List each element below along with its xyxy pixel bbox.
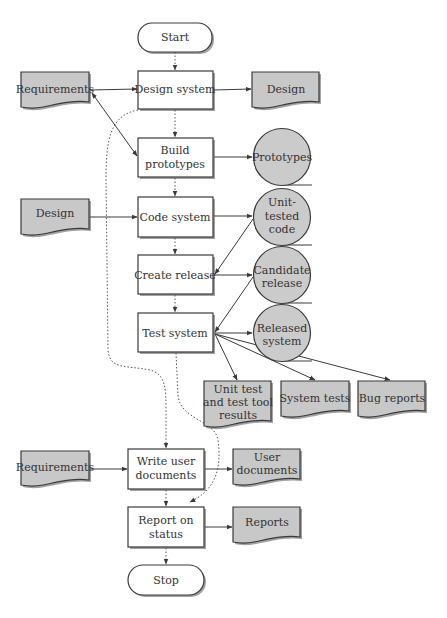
store-label: Prototypes (252, 151, 313, 164)
process-create-release[interactable]: Create release (134, 255, 216, 296)
process-label: Test system (142, 327, 208, 340)
document-requirements-top[interactable]: Requirements (16, 72, 95, 110)
store-released-system[interactable]: Released system (254, 305, 313, 362)
document-bug-reports[interactable]: Bug reports (358, 381, 427, 419)
document-system-tests[interactable]: System tests (280, 381, 351, 419)
process-label: Create release (134, 269, 216, 282)
store-unit-tested-code[interactable]: Unit- tested code (254, 189, 313, 246)
terminal-label: Start (161, 31, 190, 44)
store-label: Candidate (253, 264, 310, 277)
terminal-start[interactable]: Start (138, 23, 214, 54)
flowchart-canvas: Start Stop Design system Build prototype… (0, 0, 447, 618)
store-label: Released (257, 322, 308, 335)
process-build-prototypes[interactable]: Build prototypes (138, 138, 215, 179)
document-label: System tests (280, 392, 351, 405)
process-label: status (149, 528, 183, 541)
document-label: Unit test (214, 383, 263, 396)
store-label: Unit- (268, 196, 296, 209)
process-label: Design system (135, 83, 217, 96)
process-label: Build (160, 144, 189, 157)
document-label: results (219, 409, 257, 422)
process-report-on-status[interactable]: Report on status (128, 507, 206, 549)
process-label: Write user (137, 455, 196, 468)
store-label: system (263, 335, 302, 348)
terminal-stop[interactable]: Stop (128, 565, 206, 597)
document-label: Design (36, 207, 75, 220)
document-design-output[interactable]: Design (252, 72, 321, 110)
document-unit-test-results[interactable]: Unit test and test tool results (203, 381, 273, 429)
document-design-input[interactable]: Design (21, 199, 91, 237)
process-design-system[interactable]: Design system (135, 71, 217, 111)
document-label: Reports (245, 516, 289, 529)
document-label: Requirements (16, 461, 95, 474)
process-label: prototypes (145, 158, 205, 171)
store-label: release (262, 277, 303, 290)
process-write-user-documents[interactable]: Write user documents (128, 449, 206, 491)
document-label: documents (237, 464, 298, 477)
process-label: Code system (140, 211, 212, 224)
store-label: tested (265, 210, 300, 223)
process-label: Report on (138, 514, 193, 527)
document-label: and test tool (203, 396, 273, 409)
document-reports[interactable]: Reports (233, 507, 302, 545)
store-candidate-release[interactable]: Candidate release (253, 247, 312, 304)
document-requirements-bottom[interactable]: Requirements (16, 451, 95, 488)
document-label: User (254, 451, 281, 464)
store-label: code (269, 223, 295, 236)
document-label: Requirements (16, 83, 95, 96)
document-label: Design (267, 83, 306, 96)
process-label: documents (136, 469, 197, 482)
document-label: Bug reports (359, 392, 426, 405)
terminal-label: Stop (153, 574, 179, 587)
document-user-documents[interactable]: User documents (233, 449, 302, 487)
process-code-system[interactable]: Code system (138, 197, 215, 239)
process-test-system[interactable]: Test system (138, 313, 215, 354)
store-prototypes[interactable]: Prototypes (252, 129, 313, 186)
